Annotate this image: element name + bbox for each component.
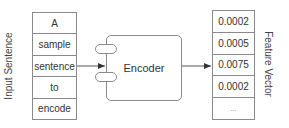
vector-cell: 0.0075: [213, 55, 254, 77]
vector-cell: 0.0002: [213, 76, 254, 98]
vector-cell-ellipsis: ...: [213, 98, 254, 119]
encoder-port-bottom: [95, 72, 117, 82]
encoder-port-top: [95, 44, 117, 54]
vector-cell: 0.0002: [213, 11, 254, 33]
encoder-label: Encoder: [124, 62, 165, 74]
encoder-block: Encoder: [106, 35, 182, 101]
vector-cell: 0.0005: [213, 33, 254, 55]
feature-vector-label: Feature Vector: [263, 31, 274, 97]
feature-vector-stack: 0.0002 0.0005 0.0075 0.0002 ...: [212, 10, 255, 120]
